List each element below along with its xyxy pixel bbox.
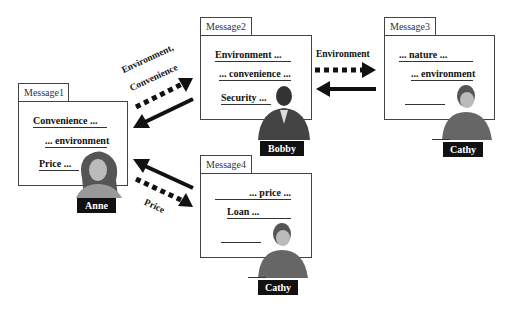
person-name-cathy-1: Cathy: [443, 142, 483, 157]
message1-line-1: Convenience ...: [33, 115, 107, 128]
cathy-avatar-2: [256, 222, 310, 278]
message3-tab: Message3: [384, 17, 436, 35]
person-name-bobby: Bobby: [260, 141, 304, 156]
message3-line-1: ... nature ...: [399, 49, 473, 62]
person-name-cathy-2: Cathy: [258, 280, 298, 295]
message3-line-2: ... environment: [411, 68, 473, 81]
message4-line-2: Loan ...: [227, 206, 291, 219]
cathy-desk-line-1: [432, 139, 450, 140]
anne-avatar: [72, 150, 124, 198]
message4-blank-line: [221, 242, 261, 243]
message1-tab: Message1: [18, 83, 69, 101]
arrow-label-environment: Environment: [316, 49, 370, 59]
bobby-avatar: [256, 84, 312, 140]
solid-arrow-m4-to-m1: [133, 159, 193, 188]
person-name-anne: Anne: [77, 198, 116, 213]
message2-line-2: ... convenience ...: [219, 68, 291, 81]
message1-line-2: ... environment: [45, 135, 107, 148]
dotted-arrow-m2-to-m3: [315, 62, 376, 78]
message4-tab: Message4: [200, 155, 252, 173]
cathy-desk-line-2: [248, 277, 266, 278]
solid-arrow-m2-to-m1: [133, 99, 193, 128]
message3-blank-line: [405, 104, 445, 105]
message2-tab: Message2: [200, 17, 252, 35]
message2-line-1: Environment ...: [215, 49, 291, 62]
message4-line-1: ... price ...: [215, 187, 291, 200]
cathy-avatar-1: [440, 84, 494, 140]
solid-arrow-m3-to-m2: [316, 81, 376, 97]
